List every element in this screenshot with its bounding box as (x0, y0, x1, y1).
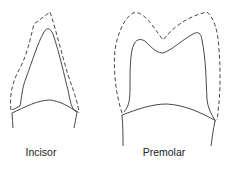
incisor-inner-outline (12, 29, 78, 112)
premolar-inner-outline (124, 33, 215, 120)
tooth-diagram (0, 0, 238, 170)
incisor-root-right (74, 112, 77, 128)
incisor-label: Incisor (26, 146, 57, 158)
incisor-dashed-outline (10, 12, 79, 113)
premolar-label: Premolar (143, 146, 186, 158)
incisor-root-left (12, 113, 13, 128)
premolar-cervical-line (122, 104, 216, 121)
premolar-drawing (114, 12, 220, 146)
premolar-root-right (211, 121, 215, 146)
premolar-root-left (122, 115, 123, 146)
incisor-cervical-line (12, 100, 77, 113)
incisor-drawing (10, 12, 79, 128)
